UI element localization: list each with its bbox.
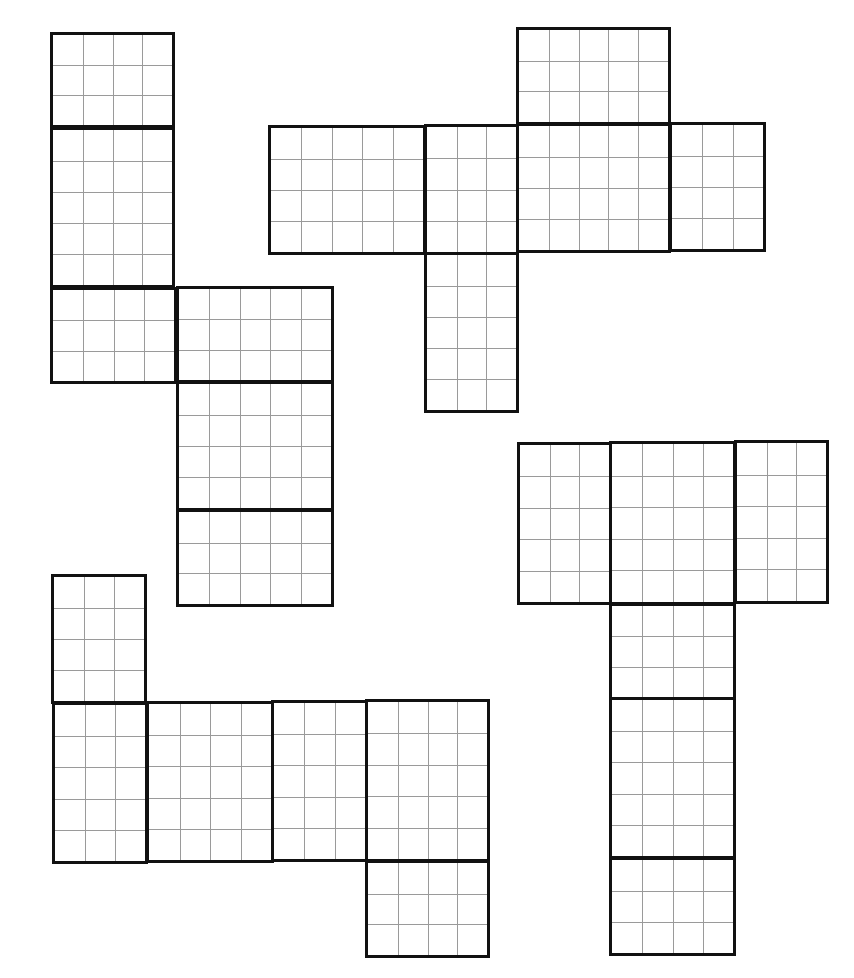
grid-line	[520, 539, 609, 540]
net-panel	[609, 857, 736, 956]
grid-line	[520, 571, 609, 572]
net-panel	[517, 442, 612, 605]
box-nets-diagram	[0, 0, 854, 978]
grid-line	[642, 860, 643, 953]
grid-line	[612, 825, 733, 826]
grid-line	[612, 762, 733, 763]
grid-line	[767, 443, 768, 601]
grid-line	[703, 606, 704, 697]
net-panel	[609, 697, 736, 859]
grid-line	[520, 508, 609, 509]
grid-line	[673, 700, 674, 856]
grid-line	[703, 860, 704, 953]
grid-line	[642, 606, 643, 697]
grid-line	[612, 570, 733, 571]
grid-line	[703, 444, 704, 602]
grid-line	[520, 476, 609, 477]
grid-line	[737, 538, 826, 539]
grid-line	[642, 444, 643, 602]
grid-line	[550, 445, 551, 602]
grid-line	[703, 700, 704, 856]
grid-line	[737, 569, 826, 570]
grid-line	[612, 507, 733, 508]
box-net-lower-right	[0, 0, 854, 978]
grid-line	[737, 475, 826, 476]
grid-line	[612, 667, 733, 668]
grid-line	[673, 860, 674, 953]
grid-line	[612, 794, 733, 795]
grid-line	[612, 891, 733, 892]
grid-line	[796, 443, 797, 601]
grid-line	[673, 444, 674, 602]
grid-line	[737, 506, 826, 507]
grid-line	[612, 476, 733, 477]
net-panel	[609, 441, 736, 605]
grid-line	[642, 700, 643, 856]
grid-line	[612, 539, 733, 540]
grid-line	[673, 606, 674, 697]
grid-line	[579, 445, 580, 602]
net-panel	[734, 440, 829, 604]
grid-line	[612, 636, 733, 637]
grid-line	[612, 731, 733, 732]
net-panel	[609, 603, 736, 700]
grid-line	[612, 922, 733, 923]
